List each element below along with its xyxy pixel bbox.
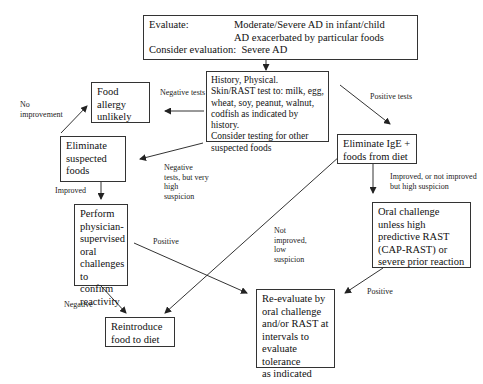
label-no-improvement: No improvement bbox=[20, 100, 63, 119]
label-improved-or-high-suspicion: Improved, or not improved but high suspi… bbox=[390, 172, 477, 191]
label-negative: Negative bbox=[64, 300, 93, 310]
consider-value: Severe AD bbox=[241, 44, 287, 55]
history-box: History, Physical. Skin/RAST test to: mi… bbox=[206, 71, 329, 142]
consider-label: Consider evaluation: bbox=[149, 44, 236, 55]
food-allergy-unlikely-box: Food allergy unlikely bbox=[91, 82, 150, 123]
label-positive-tests: Positive tests bbox=[370, 92, 412, 102]
label-negative-tests: Negative tests bbox=[160, 88, 205, 98]
evaluate-box: Evaluate:Moderate/Severe AD in infant/ch… bbox=[143, 15, 418, 60]
label-positive-right: Positive bbox=[367, 287, 393, 297]
evaluate-label: Evaluate: bbox=[149, 19, 234, 32]
label-negative-high-suspicion: Negative tests, but very high suspicion bbox=[164, 163, 209, 201]
label-positive-left: Positive bbox=[153, 237, 179, 247]
reintroduce-box: Reintroduce food to diet bbox=[105, 317, 175, 347]
condition-2: AD exacerbated by particular foods bbox=[234, 32, 384, 45]
label-improved: Improved bbox=[55, 186, 86, 196]
condition-1: Moderate/Severe AD in infant/child bbox=[234, 19, 385, 32]
label-not-improved-low-suspicion: Not improved, low suspicion bbox=[274, 226, 307, 264]
oral-challenge-box: Oral challenge unless high predictive RA… bbox=[372, 202, 471, 268]
eliminate-suspected-box: Eliminate suspected foods bbox=[60, 136, 126, 182]
physician-challenge-box: Perform physician- supervised oral chall… bbox=[74, 204, 128, 286]
arrow-history-to-eliminate-suspected bbox=[140, 143, 203, 159]
reevaluate-box: Re-evaluate by oral challenge and/or RAS… bbox=[256, 289, 335, 368]
arrow-no-improvement bbox=[61, 106, 87, 133]
eliminate-ige-box: Eliminate IgE + foods from diet bbox=[337, 134, 417, 164]
arrow-positive-left bbox=[134, 243, 247, 293]
arrow-history-to-eliminate-ige bbox=[340, 85, 390, 124]
